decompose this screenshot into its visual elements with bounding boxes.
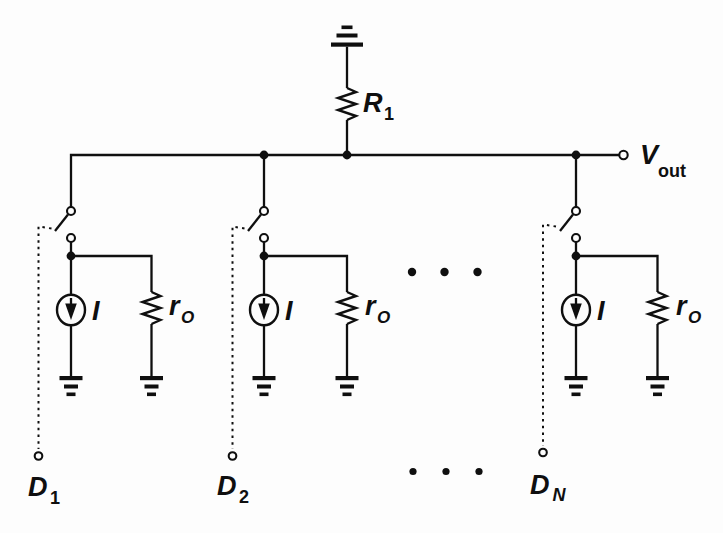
ground-symbol [646, 376, 669, 396]
ground-bar-medium [340, 385, 354, 389]
switch-bottom-contact [67, 234, 75, 242]
resistor-zigzag [338, 292, 356, 324]
vout-label-base: V [640, 140, 660, 170]
ground-bar-small [653, 393, 662, 397]
ground-bar-small [260, 393, 269, 397]
control-terminal [35, 452, 43, 460]
current-source: I [250, 295, 293, 326]
dac-cell-2: I r O D 2 [217, 155, 390, 507]
ellipsis-dot [408, 268, 416, 276]
output-resistance-label-base: r [365, 291, 377, 321]
ground-symbol [140, 376, 163, 396]
ground-bar-large [60, 376, 83, 380]
ground-symbol-top [331, 26, 363, 47]
ground-bar-medium [651, 385, 665, 389]
control-line: D 1 [28, 227, 60, 509]
ground-bar-large [336, 376, 359, 380]
resistor-zigzag [649, 292, 667, 324]
control-bit-label-sub: 1 [50, 488, 60, 508]
ground-bar-large [253, 376, 276, 380]
control-bit-label-sub: 2 [239, 487, 249, 507]
node-to-resistor-wire [576, 256, 658, 292]
control-dashed-wire [543, 225, 556, 447]
ellipsis-dot [473, 268, 481, 276]
ground-bar-large [565, 376, 588, 380]
output-resistance-label-sub: O [181, 308, 194, 327]
current-source: I [562, 295, 605, 326]
control-bit-label-base: D [28, 472, 48, 502]
vout-terminal [619, 151, 627, 159]
switch-bottom-contact [572, 234, 580, 242]
ground-bar-medium [569, 385, 583, 389]
bus-junction-dot [343, 151, 352, 160]
ground-symbol [253, 376, 276, 396]
control-bit-label: D 2 [217, 471, 249, 507]
ground-bar-medium [257, 385, 271, 389]
dac-cell-n: I r O D N [530, 155, 701, 505]
control-terminal [229, 452, 237, 460]
resistor-zigzag [338, 88, 356, 120]
ground-bar-large [140, 376, 163, 380]
schematic-page: R 1 V out I [0, 0, 723, 533]
switch-top-contact [572, 207, 580, 215]
output-resistance-label: r O [365, 291, 390, 327]
control-bit-label: D N [530, 470, 567, 505]
load-resistor-label-sub: 1 [384, 104, 394, 124]
ellipsis-dot [475, 468, 482, 475]
load-resistor-label-base: R [363, 88, 383, 118]
control-line: D 2 [217, 227, 249, 508]
ellipsis-dot [442, 468, 449, 475]
ground-bar-small [572, 393, 581, 397]
vout-label: V out [640, 140, 686, 181]
current-source-label: I [285, 296, 293, 326]
control-dashed-wire [233, 227, 245, 450]
control-bit-label-base: D [217, 471, 237, 501]
switch-lever [55, 215, 68, 232]
load-resistor-label: R 1 [363, 88, 394, 124]
output-resistance-label-base: r [676, 291, 688, 321]
ground-bar-small [147, 393, 156, 397]
ground-bar-small [343, 393, 352, 397]
output-resistance-label-sub: O [377, 308, 390, 327]
ground-symbol [565, 376, 588, 396]
switch-top-contact [260, 207, 268, 215]
control-line: D N [530, 225, 567, 506]
control-dashed-wire [39, 227, 52, 450]
control-bit-label-sub: N [553, 485, 567, 505]
circuit-canvas: R 1 V out I [0, 0, 723, 533]
current-arrow-head [65, 304, 77, 321]
ground-symbol [336, 376, 359, 396]
current-arrow-head [258, 304, 270, 321]
switch-top-contact [67, 207, 75, 215]
ground-bar-medium [337, 34, 358, 38]
ground-bar-large [646, 376, 669, 380]
ellipsis-dot [409, 468, 416, 475]
ground-bar-medium [64, 385, 78, 389]
control-bit-label-base: D [530, 470, 550, 500]
ground-bar-small [342, 26, 353, 30]
ellipsis-dot [440, 268, 448, 276]
current-source: I [57, 295, 100, 326]
ground-bar-small [67, 393, 76, 397]
output-resistance-label: r O [169, 291, 194, 327]
node-to-resistor-wire [71, 256, 152, 292]
switch-bottom-contact [260, 234, 268, 242]
output-resistance-label-sub: O [688, 308, 701, 327]
output-resistance-label: r O [676, 291, 701, 327]
vout-label-sub: out [658, 161, 686, 181]
node-to-resistor-wire [264, 256, 347, 292]
output-resistor: r O [143, 291, 195, 377]
dac-cell-1: I r O D 1 [28, 207, 194, 508]
ellipsis-bottom [409, 468, 482, 475]
output-bus-wire [71, 155, 619, 207]
current-arrow-head [570, 304, 582, 321]
resistor-zigzag [143, 292, 161, 324]
switch-lever [248, 215, 261, 232]
ground-bar-medium [145, 385, 159, 389]
ground-symbol [60, 376, 83, 396]
ellipsis-middle [408, 268, 482, 276]
switch-lever [560, 215, 573, 232]
current-source-label: I [597, 296, 605, 326]
ground-bar-large [331, 43, 363, 47]
output-resistor: r O [649, 291, 702, 377]
